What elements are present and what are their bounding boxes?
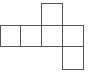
net-square-row-2 <box>20 25 42 47</box>
net-square-row-4 <box>62 25 84 47</box>
net-square-bottom <box>62 46 84 70</box>
net-square-top <box>41 3 63 26</box>
net-square-row-3 <box>41 25 63 47</box>
net-square-row-1 <box>0 25 21 47</box>
